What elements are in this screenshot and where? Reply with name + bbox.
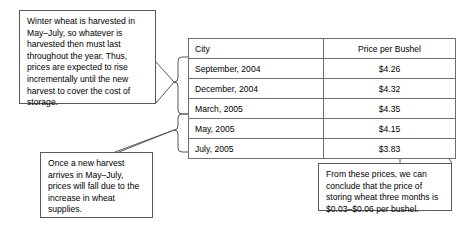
- callout-new-harvest-text: Once a new harvest arrives in May–July, …: [48, 158, 146, 216]
- leader-wheat-harvest-bottom: [156, 82, 174, 103]
- wheat-price-annotated-figure: City Price per Bushel September, 2004 $4…: [0, 0, 472, 233]
- cell-city: March, 2005: [189, 99, 324, 119]
- leader-new-harvest-top: [115, 130, 174, 152]
- column-header-city: City: [189, 39, 324, 59]
- table-row: July, 2005 $3.83: [189, 139, 456, 159]
- cell-city: September, 2004: [189, 59, 324, 79]
- cell-price: $4.32: [324, 79, 456, 99]
- cell-price: $4.15: [324, 119, 456, 139]
- callout-storage-cost-text: From these prices, we can conclude that …: [326, 169, 445, 215]
- cell-price: $4.26: [324, 59, 456, 79]
- wheat-price-table: City Price per Bushel September, 2004 $4…: [188, 38, 456, 159]
- cell-city: May, 2005: [189, 119, 324, 139]
- table-row: December, 2004 $4.32: [189, 79, 456, 99]
- table-row: March, 2005 $4.35: [189, 99, 456, 119]
- column-header-price: Price per Bushel: [324, 39, 456, 59]
- table-header-row: City Price per Bushel: [189, 39, 456, 59]
- leader-wheat-harvest-top: [156, 62, 174, 82]
- cell-city: July, 2005: [189, 139, 324, 159]
- brace-lower-rows: [174, 114, 188, 152]
- cell-price: $4.35: [324, 99, 456, 119]
- table-row: May, 2005 $4.15: [189, 119, 456, 139]
- callout-storage-cost: From these prices, we can conclude that …: [318, 163, 452, 211]
- brace-upper-rows: [174, 57, 188, 114]
- cell-price: $3.83: [324, 139, 456, 159]
- callout-wheat-harvest: Winter wheat is harvested in May–July, s…: [19, 10, 156, 104]
- callout-new-harvest: Once a new harvest arrives in May–July, …: [40, 152, 153, 218]
- callout-wheat-harvest-text: Winter wheat is harvested in May–July, s…: [27, 16, 149, 109]
- table-row: September, 2004 $4.26: [189, 59, 456, 79]
- cell-city: December, 2004: [189, 79, 324, 99]
